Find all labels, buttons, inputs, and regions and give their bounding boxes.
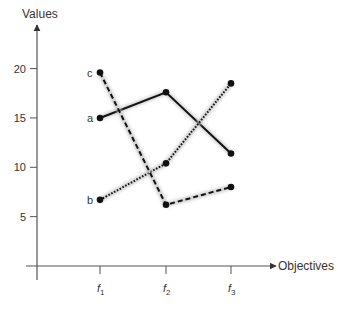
data-point xyxy=(97,115,104,122)
data-point xyxy=(228,150,235,157)
y-tick-label: 5 xyxy=(20,211,26,223)
series-label: a xyxy=(87,112,94,124)
data-point xyxy=(97,197,104,204)
data-point xyxy=(97,69,104,76)
data-point xyxy=(228,80,235,87)
x-tick-label: f1 xyxy=(97,282,105,297)
series-a: a xyxy=(87,89,234,157)
y-tick-label: 10 xyxy=(14,161,26,173)
series-b: b xyxy=(87,80,234,206)
parallel-coordinates-chart: Values Objectives 5101520 f1f2f3 abc xyxy=(0,0,338,309)
series-label: c xyxy=(87,67,93,79)
x-axis-label: Objectives xyxy=(278,259,334,273)
x-ticks: f1f2f3 xyxy=(97,266,236,297)
data-point xyxy=(163,160,170,167)
y-tick-label: 15 xyxy=(14,112,26,124)
series-lines: abc xyxy=(87,67,234,209)
y-ticks: 5101520 xyxy=(14,63,37,223)
y-axis-label: Values xyxy=(22,7,58,21)
data-point xyxy=(163,202,170,209)
data-point xyxy=(228,184,235,191)
series-label: b xyxy=(87,194,93,206)
y-tick-label: 20 xyxy=(14,63,26,75)
x-tick-label: f2 xyxy=(163,282,171,297)
x-tick-label: f3 xyxy=(228,282,236,297)
data-point xyxy=(163,89,170,96)
